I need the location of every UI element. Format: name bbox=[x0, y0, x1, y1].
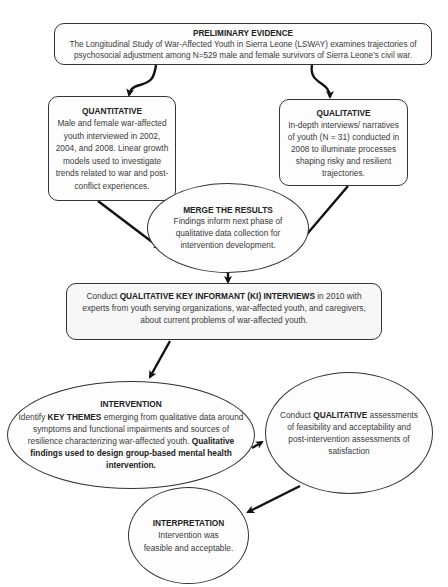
arrow-ki-to-intervention bbox=[150, 341, 170, 377]
qualitative-box: QUALITATIVE In-depth interviews/ narrati… bbox=[279, 99, 408, 186]
arrow-preliminary-to-qualitative bbox=[312, 65, 330, 97]
ki-bold: QUALITATIVE KEY INFORMANT (KI) INTERVIEW… bbox=[120, 291, 315, 301]
intervention-text: Identify KEY THEMES emerging from qualit… bbox=[18, 411, 244, 472]
qa-bold: QUALITATIVE bbox=[313, 410, 367, 420]
qualitative-assessment-ellipse: Conduct QUALITATIVE assessments of feasi… bbox=[265, 372, 433, 494]
merge-results-ellipse: MERGE THE RESULTS Findings inform next p… bbox=[147, 183, 309, 273]
mixed-methods-flow-diagram: PRELIMINARY EVIDENCE The Longitudinal St… bbox=[0, 0, 448, 587]
key-informant-text: Conduct QUALITATIVE KEY INFORMANT (KI) I… bbox=[77, 290, 371, 326]
qualitative-assessment-text: Conduct QUALITATIVE assessments of feasi… bbox=[278, 409, 420, 458]
qa-prefix: Conduct bbox=[280, 410, 313, 420]
preliminary-evidence-text: The Longitudinal Study of War-Affected Y… bbox=[59, 39, 427, 61]
interpretation-text: Intervention was feasible and acceptable… bbox=[143, 529, 234, 554]
qualitative-text: In-depth interviews/ narratives of youth… bbox=[285, 119, 402, 179]
intervention-bold-key-themes: KEY THEMES bbox=[48, 412, 102, 422]
merge-results-title: MERGE THE RESULTS bbox=[183, 205, 273, 217]
ki-prefix: Conduct bbox=[86, 291, 119, 301]
preliminary-evidence-title: PRELIMINARY EVIDENCE bbox=[193, 28, 293, 39]
intervention-title: INTERVENTION bbox=[100, 398, 162, 410]
quantitative-box: QUANTITATIVE Male and female war-affecte… bbox=[48, 96, 176, 201]
interpretation-title: INTERPRETATION bbox=[153, 517, 225, 529]
key-informant-interviews-box: Conduct QUALITATIVE KEY INFORMANT (KI) I… bbox=[66, 283, 382, 340]
intervention-prefix: Identify bbox=[19, 412, 48, 422]
qualitative-title: QUALITATIVE bbox=[316, 107, 370, 119]
preliminary-evidence-box: PRELIMINARY EVIDENCE The Longitudinal St… bbox=[54, 23, 432, 65]
merge-results-text: Findings inform next phase of qualitativ… bbox=[162, 216, 294, 251]
interpretation-ellipse: INTERPRETATION Intervention was feasible… bbox=[128, 487, 249, 584]
intervention-ellipse: INTERVENTION Identify KEY THEMES emergin… bbox=[7, 381, 255, 489]
quantitative-text: Male and female war-affected youth inter… bbox=[55, 117, 169, 191]
arrow-assessment-to-interpretation bbox=[248, 486, 300, 512]
quantitative-title: QUANTITATIVE bbox=[82, 105, 142, 117]
arrow-preliminary-to-quantitative bbox=[129, 65, 156, 95]
